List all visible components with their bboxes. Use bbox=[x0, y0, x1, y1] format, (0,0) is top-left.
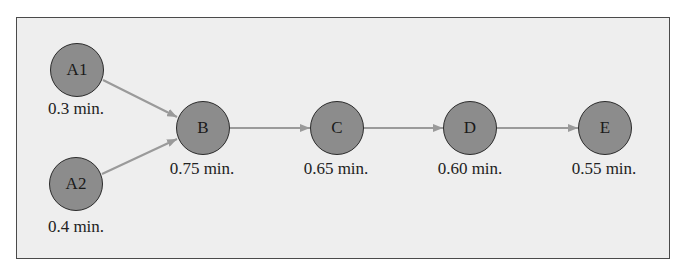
node-e: E bbox=[578, 101, 632, 155]
node-d-time: 0.60 min. bbox=[438, 160, 503, 177]
node-a2: A2 bbox=[49, 157, 103, 211]
node-b-time: 0.75 min. bbox=[170, 160, 235, 177]
node-a1-time: 0.3 min. bbox=[48, 100, 104, 117]
node-d: D bbox=[443, 101, 497, 155]
node-c-label: C bbox=[331, 118, 342, 138]
node-c-time: 0.65 min. bbox=[304, 160, 369, 177]
node-b-label: B bbox=[197, 118, 208, 138]
node-b: B bbox=[176, 101, 230, 155]
node-e-time: 0.55 min. bbox=[572, 160, 637, 177]
edge-a1-to-b bbox=[103, 80, 177, 117]
node-a2-time: 0.4 min. bbox=[48, 218, 104, 235]
node-a2-label: A2 bbox=[66, 174, 87, 194]
node-c: C bbox=[310, 101, 364, 155]
node-a1: A1 bbox=[50, 43, 104, 97]
node-e-label: E bbox=[600, 118, 610, 138]
node-a1-label: A1 bbox=[67, 60, 88, 80]
node-d-label: D bbox=[464, 118, 476, 138]
edge-a2-to-b bbox=[102, 139, 177, 174]
